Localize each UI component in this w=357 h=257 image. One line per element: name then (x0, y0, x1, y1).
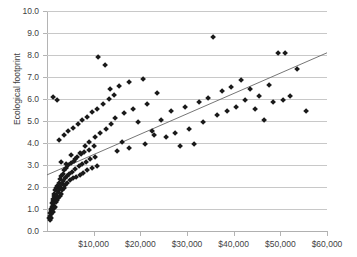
y-tick-label: 6.0 (5, 95, 39, 104)
y-tick-label: 2.0 (5, 183, 39, 192)
y-tick-label: 1.0 (5, 205, 39, 214)
trendline (47, 11, 327, 231)
y-tick-label: 7.0 (5, 73, 39, 82)
y-tick-label: 4.0 (5, 139, 39, 148)
scatter-chart: Ecological footprint 0.01.02.03.04.05.06… (0, 0, 357, 257)
gridline-horizontal (47, 231, 327, 232)
plot-area (47, 11, 327, 231)
x-tick-mark (327, 231, 328, 236)
y-tick-label: 8.0 (5, 51, 39, 60)
x-tick-label: $60,000 (292, 240, 357, 249)
y-tick-label: 5.0 (5, 117, 39, 126)
y-axis-title: Ecological footprint (12, 29, 22, 149)
y-tick-label: 9.0 (5, 29, 39, 38)
y-tick-label: 0.0 (5, 227, 39, 236)
y-tick-label: 3.0 (5, 161, 39, 170)
chart-title (0, 0, 357, 5)
y-tick-label: 10.0 (5, 7, 39, 16)
